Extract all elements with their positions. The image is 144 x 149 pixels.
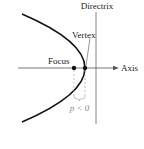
vertex-label: Vertex: [72, 30, 96, 40]
p-brace: [74, 96, 85, 101]
axis-label: Axis: [121, 63, 139, 73]
axis: [18, 66, 119, 70]
vertex-point: [83, 66, 87, 70]
focus-label: Focus: [48, 56, 70, 66]
directrix-label: Directrix: [81, 1, 114, 11]
focus-point: [72, 66, 76, 70]
vertex-leader-line: [86, 38, 90, 66]
axis-arrow-icon: [113, 66, 119, 70]
parabola-diagram: Axis Directrix Vertex Focus p < 0: [0, 0, 144, 149]
p-condition-label: p < 0: [69, 103, 90, 113]
